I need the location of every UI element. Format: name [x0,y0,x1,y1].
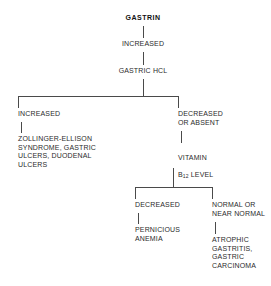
node-pernicious-anemia-outcome: PERNICIOUS ANEMIA [135,226,180,243]
node-vitamin-b12-level: VITAMIN B12 LEVEL [178,145,213,179]
vitamin-level-word: LEVEL [189,171,214,178]
vitamin-line-1: VITAMIN [178,154,207,161]
connector-split1-right-drop [178,96,179,108]
node-gastrin: GASTRIN [126,14,161,23]
node-atrophic-gastritis-outcome: ATROPHIC GASTRITIS, GASTRIC CARCINOMA [212,236,256,270]
connector-split2-right-drop [212,187,213,199]
gastrin-flowchart: GASTRIN INCREASED GASTRIC HCL INCREASED … [0,0,271,286]
connector-split1-left-drop [18,96,19,108]
connector-left-increased-to-outcome [21,122,22,133]
connector-split2-left-drop [135,187,136,199]
connector-sub-left-to-outcome [138,213,139,224]
node-root-increased: INCREASED [122,40,164,49]
connector-vitamin-stem [173,168,174,187]
node-branch-left-increased: INCREASED [18,110,60,119]
connector-gastric-hcl-stem [143,79,144,96]
connector-decreased-to-vitamin [181,131,182,143]
node-branch-right-decreased-or-absent: DECREASED OR ABSENT [178,110,223,127]
node-sub-left-decreased: DECREASED [135,201,180,210]
connector-increased-to-gastric-hcl [143,52,144,65]
connector-gastrin-to-increased [143,26,144,38]
node-zollinger-ellison-outcome: ZOLLINGER-ELLISON SYNDROME, GASTRIC ULCE… [18,135,96,169]
node-sub-right-normal: NORMAL OR NEAR NORMAL [212,201,265,218]
split-bar-gastric-hcl [18,96,179,97]
vitamin-b12-subscript: 12 [183,173,189,179]
split-bar-vitamin-b12 [135,187,213,188]
connector-sub-right-to-outcome [215,222,216,234]
node-gastric-hcl: GASTRIC HCL [119,67,168,76]
